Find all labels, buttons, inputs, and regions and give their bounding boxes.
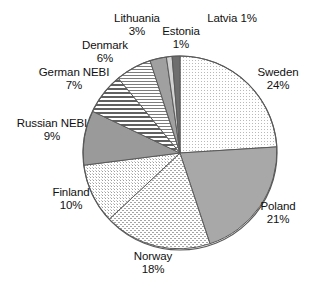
pie-label-norway: Norway 18% xyxy=(122,250,184,276)
pie-label-finland-name: Finland xyxy=(40,186,102,199)
pie-label-latvia-value: 1% xyxy=(240,12,256,24)
pie-chart: Lithuania 3% Estonia 1% Latvia 1% Denmar… xyxy=(0,0,314,290)
pie-label-german-nebi-name: German NEBI xyxy=(30,66,118,79)
pie-label-estonia-name: Estonia xyxy=(162,25,200,37)
pie-label-german-nebi-value: 7% xyxy=(30,79,118,92)
pie-label-poland-value: 21% xyxy=(250,213,306,226)
pie-label-finland: Finland 10% xyxy=(40,186,102,212)
pie-label-finland-value: 10% xyxy=(40,199,102,212)
pie-label-estonia: Estonia 1% xyxy=(152,25,210,51)
pie-label-norway-value: 18% xyxy=(122,263,184,276)
pie-label-sweden-name: Sweden xyxy=(248,66,308,79)
pie-label-german-nebi: German NEBI 7% xyxy=(30,66,118,92)
pie-label-norway-name: Norway xyxy=(122,250,184,263)
pie-label-poland: Poland 21% xyxy=(250,200,306,226)
pie-label-denmark-name: Denmark xyxy=(72,39,138,52)
pie-label-latvia-name: Latvia xyxy=(207,12,237,24)
pie-label-sweden-value: 24% xyxy=(248,79,308,92)
pie-label-poland-name: Poland xyxy=(250,200,306,213)
pie-label-russian-nebi-name: Russian NEBI xyxy=(6,117,98,130)
pie-label-estonia-value: 1% xyxy=(173,38,189,50)
pie-label-lithuania-name: Lithuania xyxy=(104,12,170,25)
pie-label-russian-nebi-value: 9% xyxy=(6,130,98,143)
pie-label-denmark-value: 6% xyxy=(72,52,138,65)
pie-label-russian-nebi: Russian NEBI 9% xyxy=(6,117,98,143)
pie-label-sweden: Sweden 24% xyxy=(248,66,308,92)
pie-label-denmark: Denmark 6% xyxy=(72,39,138,65)
pie-label-latvia: Latvia 1% xyxy=(206,12,258,25)
